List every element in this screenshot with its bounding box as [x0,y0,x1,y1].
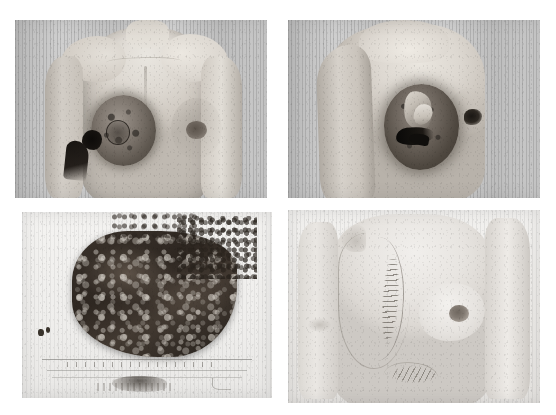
photo-postoperative [288,210,540,403]
shoulder [359,20,450,63]
photo-gross-specimen [22,212,272,398]
suture-line [360,240,408,358]
illegible-label-text [97,383,172,390]
photo-frontal-preoperative [15,20,267,198]
neck [126,20,169,48]
skin-mark [308,318,331,332]
tissue-fleck [38,329,44,336]
contralateral-nipple [186,121,206,139]
tissue-fleck [46,327,51,333]
areola-outline [106,120,131,145]
panel-frontal-preoperative[interactable] [15,20,267,198]
figure-plate [0,0,556,415]
panel-gross-specimen[interactable] [22,212,272,398]
arm-right [485,218,530,399]
measuring-scale-line [47,370,247,371]
panel-postoperative[interactable] [288,210,540,403]
measuring-scale-line [42,359,252,360]
ulcer-extension [63,140,90,181]
panel-oblique-preoperative[interactable] [288,20,540,198]
measuring-scale-ticks [67,362,217,368]
scale-end-marker [212,378,231,390]
abducted-arm [316,44,377,198]
photo-oblique-preoperative [288,20,540,198]
arm-left [298,222,338,400]
frayed-margin-top [112,212,197,238]
